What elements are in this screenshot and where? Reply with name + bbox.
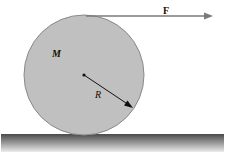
- force-label: F: [163, 5, 169, 16]
- radius-label: R: [95, 89, 101, 100]
- diagram-canvas: [0, 0, 226, 154]
- ground: [1, 134, 224, 152]
- mass-label: M: [52, 48, 61, 59]
